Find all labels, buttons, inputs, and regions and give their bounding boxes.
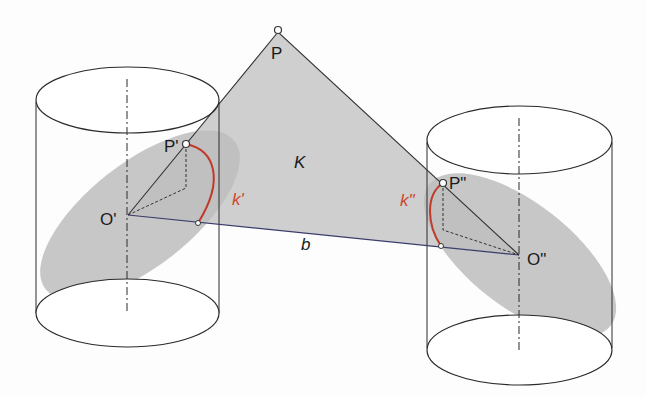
diagram-svg: P P' P" O' O" K k' k" b (0, 0, 646, 396)
point-k1-end (196, 221, 201, 226)
label-b: b (301, 235, 310, 254)
label-p-double-prime: P" (449, 174, 466, 193)
label-p: P (271, 44, 282, 63)
point-p (275, 27, 282, 34)
label-p-prime: P' (164, 137, 179, 156)
diagram-canvas: P P' P" O' O" K k' k" b (0, 0, 646, 396)
point-p-prime (183, 141, 190, 148)
point-k2-end (439, 244, 444, 249)
label-k-plane: K (294, 153, 306, 172)
label-k-double-prime: k" (400, 191, 416, 210)
point-p-double-prime (440, 180, 447, 187)
label-k-prime: k' (232, 190, 245, 209)
label-o-double-prime: O" (527, 250, 546, 269)
label-o-prime: O' (100, 210, 116, 229)
